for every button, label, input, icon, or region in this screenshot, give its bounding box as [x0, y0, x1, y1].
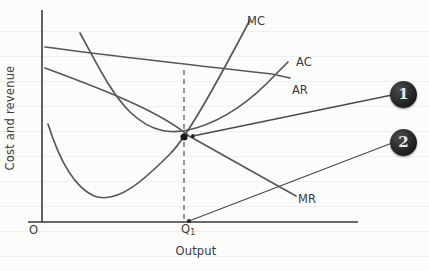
curve-label-ar: AR — [292, 83, 308, 97]
curve-label-mc: MC — [247, 14, 265, 28]
x-axis-title: Output — [175, 244, 216, 258]
callout-badge-2[interactable]: 2 — [390, 129, 417, 156]
q1-letter: Q — [181, 222, 190, 236]
curve-label-mr: MR — [298, 192, 316, 206]
callout-1-leader-line — [193, 95, 392, 136]
y-axis-title: Cost and revenue — [3, 66, 17, 171]
curve-mc — [48, 20, 250, 198]
diagram-canvas: Cost and revenue Output O Q1 MC AC AR MR… — [0, 0, 429, 271]
chart-plot — [0, 0, 429, 271]
curve-ar — [45, 47, 290, 78]
callout-2-leader-line — [189, 143, 392, 221]
origin-label: O — [29, 223, 38, 237]
callout-badge-1[interactable]: 1 — [390, 81, 417, 108]
x-axis-marker-label: Q1 — [181, 222, 196, 237]
curve-label-ac: AC — [296, 55, 312, 69]
q1-subscript: 1 — [190, 228, 195, 237]
equilibrium-point — [180, 133, 187, 140]
